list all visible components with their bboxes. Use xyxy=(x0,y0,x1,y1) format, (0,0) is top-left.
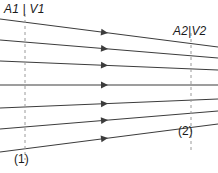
flow-direction-arrow xyxy=(101,62,108,69)
station-1-label: (1) xyxy=(14,152,29,166)
streamline xyxy=(0,99,218,108)
flow-direction-arrow xyxy=(101,100,108,107)
streamtube-flow-diagram: A1 | V1 A2|V2 (1) (2) xyxy=(0,0,218,173)
inlet-label: A1 | V1 xyxy=(4,2,45,16)
streamline xyxy=(0,61,218,70)
station-2-label: (2) xyxy=(178,124,193,138)
outlet-label: A2|V2 xyxy=(173,24,206,38)
flow-direction-arrow xyxy=(101,82,108,89)
flow-direction-arrow xyxy=(101,135,109,143)
flow-direction-arrow xyxy=(101,45,109,52)
flow-direction-arrow xyxy=(101,117,109,124)
flow-direction-arrow xyxy=(101,29,109,37)
